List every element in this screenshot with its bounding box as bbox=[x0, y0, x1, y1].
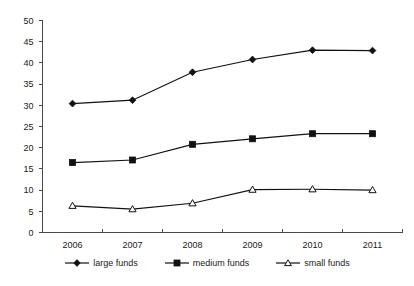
series-medium-funds bbox=[70, 131, 376, 166]
y-tick-label: 0 bbox=[28, 228, 33, 238]
series-large-funds bbox=[69, 47, 376, 107]
x-tick-label: 2011 bbox=[363, 240, 382, 250]
legend-label-large-funds: large funds bbox=[93, 258, 138, 268]
data-point bbox=[129, 97, 136, 104]
x-tick-label: 2006 bbox=[62, 240, 82, 250]
chart-canvas: 05101520253035404550 2006200720082009201… bbox=[0, 0, 414, 286]
x-tick-group: 200620072008200920102011 bbox=[43, 229, 403, 250]
data-point bbox=[69, 100, 76, 107]
series-line bbox=[73, 134, 373, 163]
data-point bbox=[130, 157, 136, 163]
legend-item-medium-funds: medium funds bbox=[164, 258, 250, 268]
data-point bbox=[69, 202, 76, 208]
y-tick-label: 15 bbox=[23, 164, 33, 174]
series-line bbox=[73, 189, 373, 209]
data-point bbox=[310, 131, 316, 137]
y-tick-label: 10 bbox=[23, 185, 33, 195]
chart-legend: large funds medium funds small funds bbox=[0, 258, 414, 268]
data-point bbox=[190, 141, 196, 147]
data-point bbox=[309, 47, 316, 54]
x-tick-label: 2008 bbox=[182, 240, 202, 250]
x-tick-label: 2007 bbox=[122, 240, 142, 250]
legend-label-small-funds: small funds bbox=[304, 258, 350, 268]
y-tick-label: 20 bbox=[23, 143, 33, 153]
series-line bbox=[73, 50, 373, 103]
data-point bbox=[370, 131, 376, 137]
x-axis: 200620072008200920102011 bbox=[43, 229, 403, 250]
y-tick-group: 05101520253035404550 bbox=[23, 16, 42, 238]
legend-item-large-funds: large funds bbox=[64, 258, 138, 268]
legend-label-medium-funds: medium funds bbox=[193, 258, 250, 268]
y-tick-label: 40 bbox=[23, 58, 33, 68]
line-chart: 05101520253035404550 2006200720082009201… bbox=[0, 0, 414, 286]
diamond-marker-icon bbox=[64, 258, 90, 268]
y-tick-label: 45 bbox=[23, 37, 33, 47]
y-tick-label: 35 bbox=[23, 79, 33, 89]
series-layer bbox=[69, 47, 376, 212]
y-tick-label: 50 bbox=[23, 16, 33, 26]
x-tick-label: 2009 bbox=[242, 240, 262, 250]
data-point bbox=[70, 160, 76, 166]
data-point bbox=[250, 136, 256, 142]
data-point bbox=[249, 56, 256, 63]
y-tick-label: 5 bbox=[28, 207, 33, 217]
data-point bbox=[369, 47, 376, 54]
square-marker-icon bbox=[164, 258, 190, 268]
y-tick-label: 30 bbox=[23, 101, 33, 111]
legend-item-small-funds: small funds bbox=[275, 258, 350, 268]
y-axis: 05101520253035404550 bbox=[23, 16, 42, 238]
y-tick-label: 25 bbox=[23, 122, 33, 132]
x-tick-label: 2010 bbox=[302, 240, 322, 250]
data-point bbox=[189, 69, 196, 76]
series-small-funds bbox=[69, 186, 376, 212]
triangle-marker-icon bbox=[275, 258, 301, 268]
